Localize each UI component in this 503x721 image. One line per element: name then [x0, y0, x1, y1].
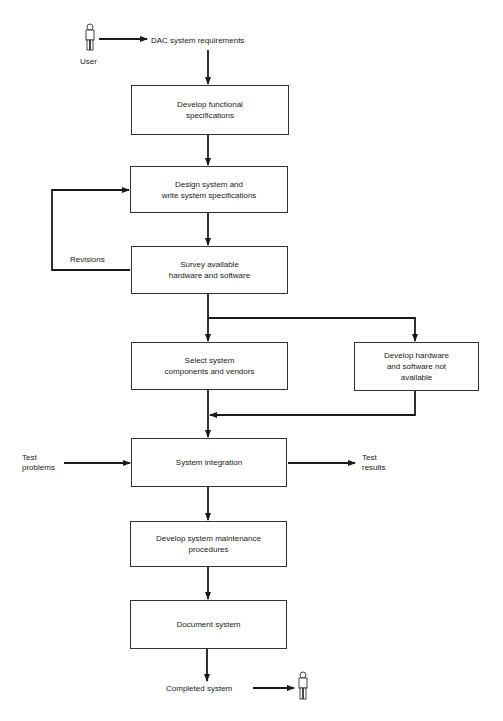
person-icon	[299, 672, 307, 699]
box-develop-hw-sw: Develop hardware and software not availa…	[354, 342, 479, 391]
revisions-label: Revisions	[70, 255, 105, 265]
box-maintenance: Develop system maintenance procedures	[130, 521, 287, 567]
box-select-components: Select system components and vendors	[131, 342, 288, 390]
test-results-label: Test results	[362, 453, 386, 473]
test-problems-label: Test problems	[22, 453, 55, 473]
start-label: DAC system requirements	[151, 36, 244, 46]
person-icon	[86, 24, 94, 50]
box-design-system: Design system and write system specifica…	[130, 166, 288, 213]
end-label: Completed system	[166, 684, 232, 694]
box-functional-specs: Develop functional specifications	[131, 85, 289, 135]
box-document-system: Document system	[130, 600, 287, 649]
box-system-integration: System integration	[131, 438, 287, 487]
user-label: User	[80, 57, 97, 67]
box-survey: Survey available hardware and software	[131, 246, 288, 294]
